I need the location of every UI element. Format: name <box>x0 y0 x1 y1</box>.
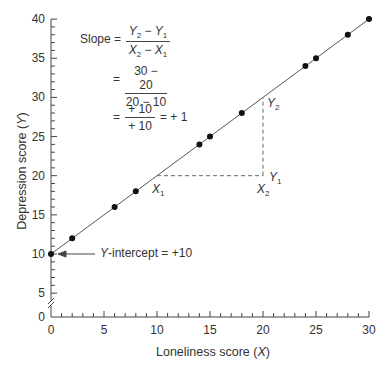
x-tick-label: 20 <box>256 323 270 337</box>
x2-symbol: X <box>257 182 265 196</box>
x-axis-label-end: ) <box>266 345 270 359</box>
y-tick-label: 5 <box>38 286 45 300</box>
minus: − <box>141 24 155 38</box>
axes <box>48 19 369 317</box>
slope-label: Slope = <box>80 32 121 46</box>
y-axis-label-end: ) <box>15 112 29 116</box>
intercept-text: -intercept = +10 <box>108 246 192 260</box>
y2-label: Y2 <box>267 96 279 112</box>
y-tick-label: 10 <box>32 247 46 261</box>
x2-label: X2 <box>257 182 269 198</box>
y2-symbol: Y <box>129 24 137 38</box>
data-point <box>313 55 319 61</box>
formula-numerator: Y2 − Y1 <box>126 24 170 42</box>
x-tick-label: 0 <box>48 323 55 337</box>
slope-step3-fraction: + 10 + 10 <box>125 102 155 133</box>
y-axis-label-text: Depression score ( <box>15 125 29 230</box>
y-tick-label: 20 <box>32 169 46 183</box>
scatter-plot: 0510152025303540051015202530 <box>0 0 385 371</box>
y1-sub: 1 <box>163 31 167 40</box>
x1-label: X1 <box>152 182 164 198</box>
y-tick-label: 40 <box>32 12 46 26</box>
x-tick-label: 10 <box>150 323 164 337</box>
step2-numerator: 30 − 20 <box>125 64 167 94</box>
x-tick-label: 25 <box>309 323 323 337</box>
x-tick-label: 5 <box>101 323 108 337</box>
tick-labels: 0510152025303540051015202530 <box>32 12 376 337</box>
x-axis-label: Loneliness score (X) <box>156 345 270 359</box>
data-point <box>48 251 54 257</box>
axis-ticks <box>51 19 369 317</box>
data-point <box>345 32 351 38</box>
y-tick-label: 30 <box>32 90 46 104</box>
y-tick-label: 15 <box>32 208 46 222</box>
data-point <box>112 204 118 210</box>
data-point <box>366 16 372 22</box>
x1-symbol: X <box>152 182 160 196</box>
x-axis-label-var: X <box>257 345 265 359</box>
data-point <box>239 110 245 116</box>
x1-sub: 1 <box>163 50 167 59</box>
y-axis-label-var: Y <box>15 116 29 124</box>
x-tick-label: 30 <box>362 323 376 337</box>
slope-result: = + 1 <box>160 110 187 124</box>
y-axis-label: Depression score (Y) <box>15 101 29 241</box>
arrow-head-icon <box>58 251 66 257</box>
y2-symbol: Y <box>267 96 275 110</box>
data-point <box>133 188 139 194</box>
y-tick-label: 35 <box>32 51 46 65</box>
x-tick-label: 15 <box>203 323 217 337</box>
equals-sign-2: = <box>113 72 120 86</box>
y1-sub: 1 <box>277 177 281 186</box>
data-point <box>207 134 213 140</box>
y-tick-label: 0 <box>38 310 45 324</box>
x-axis-label-text: Loneliness score ( <box>156 345 257 359</box>
data-point <box>69 235 75 241</box>
data-point <box>196 141 202 147</box>
intercept-var: Y <box>100 246 108 260</box>
x1-sub: 1 <box>160 189 164 198</box>
formula-denominator: X2 − X1 <box>126 42 170 59</box>
intercept-arrow <box>58 251 95 257</box>
y1-symbol: Y <box>155 24 163 38</box>
step3-numerator: + 10 <box>125 102 155 118</box>
equals-sign-3: = <box>113 110 120 124</box>
intercept-label: Y-intercept = +10 <box>100 246 192 260</box>
x2-symbol: X <box>129 43 137 57</box>
data-point <box>302 63 308 69</box>
y2-sub: 2 <box>275 103 279 112</box>
y1-label: Y1 <box>269 170 281 186</box>
minus: − <box>141 43 155 57</box>
y-tick-label: 25 <box>32 130 46 144</box>
x1-symbol: X <box>155 43 163 57</box>
step3-denominator: + 10 <box>125 118 155 133</box>
slope-formula-fraction: Y2 − Y1 X2 − X1 <box>126 24 170 59</box>
y1-symbol: Y <box>269 170 277 184</box>
x2-sub: 2 <box>265 189 269 198</box>
